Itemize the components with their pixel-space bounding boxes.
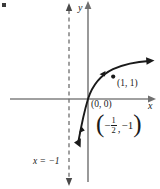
comma-separator: , — [118, 123, 121, 134]
graph-figure: y x (0, 0) (1, 1) x = −1 ( − 1 2 , −1 ) — [0, 0, 160, 189]
point-label-half-neg1: ( − 1 2 , −1 ) — [96, 115, 142, 135]
graph-canvas — [0, 0, 160, 189]
close-paren: ) — [133, 114, 141, 134]
asymptote-arrowhead-bottom — [66, 178, 72, 186]
curve-arrowhead-upper — [146, 57, 155, 65]
y-axis-label: y — [78, 3, 82, 13]
asymptote-label: x = −1 — [33, 157, 60, 167]
fraction-numerator: 1 — [111, 116, 117, 125]
fraction-denominator: 2 — [111, 126, 117, 135]
point-label-1-1: (1, 1) — [117, 79, 138, 89]
second-coordinate: −1 — [122, 120, 134, 131]
x-axis-label: x — [148, 101, 152, 111]
y-axis-arrowhead — [85, 1, 92, 9]
point-marker-1-1 — [111, 75, 115, 79]
fraction-one-half: 1 2 — [111, 116, 117, 135]
curve-arrowhead-lower — [74, 138, 81, 147]
corner-mark — [2, 3, 6, 7]
asymptote-arrowhead-top — [66, 3, 72, 11]
open-paren: ( — [96, 114, 104, 134]
origin-label: (0, 0) — [91, 100, 112, 110]
